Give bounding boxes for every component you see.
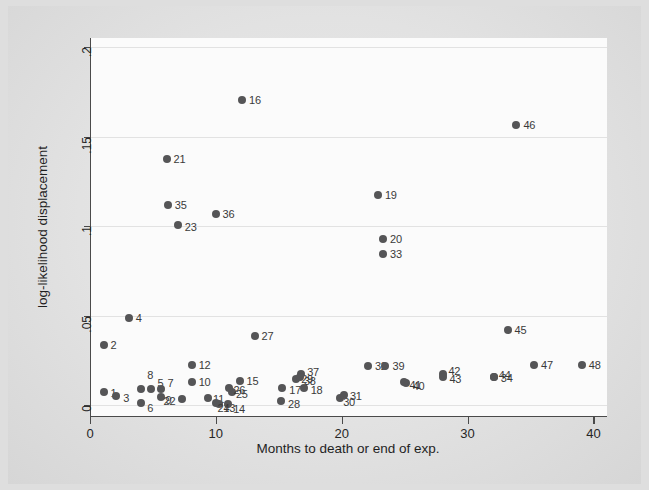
y-tick-label: 0 bbox=[80, 405, 94, 412]
data-point-label-24: 24 bbox=[218, 402, 230, 414]
data-point-label-47: 47 bbox=[541, 359, 553, 371]
data-point-17 bbox=[278, 384, 286, 392]
data-point-6 bbox=[137, 399, 145, 407]
data-point-label-38: 38 bbox=[304, 375, 316, 387]
data-point-36 bbox=[212, 210, 220, 218]
data-point-39 bbox=[381, 362, 389, 370]
y-tick-label: .15 bbox=[80, 137, 94, 154]
data-point-label-7: 7 bbox=[167, 377, 173, 389]
data-point-label-46: 46 bbox=[523, 119, 535, 131]
data-point-35 bbox=[164, 201, 172, 209]
x-tick-label-0: 0 bbox=[86, 426, 93, 441]
x-axis-title: Months to death or end of exp. bbox=[90, 441, 606, 456]
data-point-4 bbox=[125, 314, 133, 322]
data-point-label-3: 3 bbox=[123, 392, 129, 404]
gridline-y-.1 bbox=[91, 226, 607, 227]
data-point-23 bbox=[174, 221, 182, 229]
data-point-label-36: 36 bbox=[223, 208, 235, 220]
data-point-label-35: 35 bbox=[175, 199, 187, 211]
figure-page: 0.05.1.15.212345678910111213141516171819… bbox=[0, 0, 649, 490]
data-point-1 bbox=[100, 388, 108, 396]
y-tick-label: .05 bbox=[80, 316, 94, 333]
x-tick-mark-20 bbox=[342, 417, 343, 424]
data-point-46 bbox=[512, 121, 520, 129]
x-tick-mark-30 bbox=[468, 417, 469, 424]
data-point-22 bbox=[178, 395, 186, 403]
data-point-47 bbox=[530, 361, 538, 369]
data-point-7 bbox=[157, 385, 165, 393]
x-tick-label-40: 40 bbox=[586, 426, 600, 441]
data-point-44 bbox=[490, 373, 498, 381]
data-point-32 bbox=[364, 362, 372, 370]
x-tick-label-20: 20 bbox=[334, 426, 348, 441]
data-point-19 bbox=[374, 191, 382, 199]
x-tick-mark-10 bbox=[216, 417, 217, 424]
data-point-5 bbox=[147, 385, 155, 393]
data-point-label-2: 2 bbox=[111, 339, 117, 351]
data-point-27 bbox=[251, 332, 259, 340]
x-tick-mark-40 bbox=[593, 417, 594, 424]
y-tick-label: .2 bbox=[80, 47, 94, 57]
data-point-38 bbox=[296, 373, 304, 381]
data-point-45 bbox=[504, 326, 512, 334]
data-point-48 bbox=[578, 361, 586, 369]
data-point-label-23: 23 bbox=[185, 221, 197, 233]
data-point-10 bbox=[188, 378, 196, 386]
x-tick-label-10: 10 bbox=[209, 426, 223, 441]
data-point-label-43: 43 bbox=[449, 373, 461, 385]
data-point-8 bbox=[137, 385, 145, 393]
gridline-y-.15 bbox=[91, 137, 607, 138]
data-point-label-26: 26 bbox=[233, 384, 245, 396]
data-point-label-48: 48 bbox=[589, 359, 601, 371]
data-point-33 bbox=[379, 250, 387, 258]
x-tick-mark-0 bbox=[90, 417, 91, 424]
scatter-plot-figure: 0.05.1.15.212345678910111213141516171819… bbox=[0, 0, 649, 490]
data-point-31 bbox=[340, 391, 348, 399]
data-point-label-6: 6 bbox=[147, 402, 153, 414]
data-point-3 bbox=[112, 392, 120, 400]
y-tick-label: .1 bbox=[80, 226, 94, 236]
data-point-label-10: 10 bbox=[199, 376, 211, 388]
data-point-26 bbox=[225, 384, 233, 392]
data-point-label-20: 20 bbox=[390, 233, 402, 245]
data-point-label-28: 28 bbox=[288, 398, 300, 410]
data-point-label-39: 39 bbox=[392, 360, 404, 372]
data-point-20 bbox=[379, 235, 387, 243]
data-point-label-8: 8 bbox=[147, 369, 153, 381]
plot-area: 0.05.1.15.212345678910111213141516171819… bbox=[90, 38, 607, 417]
data-point-28 bbox=[277, 397, 285, 405]
data-point-label-4: 4 bbox=[136, 312, 142, 324]
data-point-label-14: 14 bbox=[233, 403, 245, 415]
data-point-label-41: 41 bbox=[409, 379, 421, 391]
data-point-label-19: 19 bbox=[385, 189, 397, 201]
data-point-label-45: 45 bbox=[515, 324, 527, 336]
gridline-y-.2 bbox=[91, 47, 607, 48]
data-point-2 bbox=[100, 341, 108, 349]
data-point-label-12: 12 bbox=[199, 359, 211, 371]
data-point-label-22: 22 bbox=[164, 395, 176, 407]
data-point-label-44: 44 bbox=[499, 369, 511, 381]
data-point-43 bbox=[439, 373, 447, 381]
data-point-label-31: 31 bbox=[350, 390, 362, 402]
data-point-label-15: 15 bbox=[247, 375, 259, 387]
data-point-label-33: 33 bbox=[390, 248, 402, 260]
data-point-16 bbox=[238, 96, 246, 104]
data-point-label-27: 27 bbox=[262, 330, 274, 342]
data-point-21 bbox=[163, 155, 171, 163]
y-axis-title: log-likelihood displacement bbox=[34, 38, 52, 416]
data-point-label-21: 21 bbox=[174, 153, 186, 165]
data-point-12 bbox=[188, 361, 196, 369]
gridline-y-.05 bbox=[91, 316, 607, 317]
data-point-label-16: 16 bbox=[249, 94, 261, 106]
x-tick-label-30: 30 bbox=[460, 426, 474, 441]
data-point-41 bbox=[400, 378, 408, 386]
